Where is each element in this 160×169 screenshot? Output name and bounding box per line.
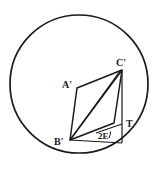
geometry-figure: A' C' B' T 2E	[0, 0, 160, 169]
outer-circle	[10, 15, 148, 153]
angle-arc-2e	[109, 132, 111, 139]
baseline-b-prime-foot	[70, 140, 122, 143]
label-a-prime: A'	[62, 80, 72, 90]
label-c-prime: C'	[116, 58, 126, 68]
label-b-prime: B'	[54, 137, 63, 147]
figure-canvas	[0, 0, 160, 169]
label-angle-2e: 2E	[98, 132, 109, 141]
label-t: T	[126, 119, 133, 129]
